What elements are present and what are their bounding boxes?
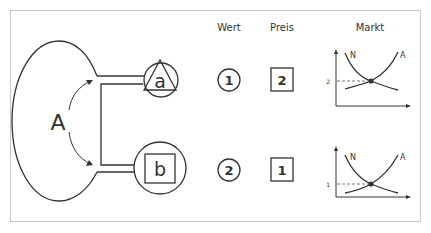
equilibrium-point	[368, 181, 373, 186]
demand-label: N	[350, 153, 356, 162]
supply-label: A	[400, 153, 406, 162]
column-header-wert: Wert	[217, 22, 241, 33]
wert-value: 1	[224, 73, 233, 88]
axis-arrow-icon	[406, 195, 411, 199]
preis-value: 1	[277, 163, 286, 178]
market-chart-row-2: N A 1	[326, 146, 411, 199]
axis-arrow-icon	[334, 146, 338, 151]
equilibrium-price-label: 1	[326, 181, 330, 188]
wert-value: 2	[224, 163, 233, 178]
good-a-label: a	[154, 70, 166, 92]
demand-label: N	[350, 51, 356, 60]
column-header-markt: Markt	[356, 22, 385, 33]
equilibrium-point	[368, 78, 373, 83]
value-price-market-diagram: A a b Wert Preis Markt 1 2 N A 2 2 1	[0, 0, 431, 233]
market-chart-row-1: N A 2	[326, 49, 411, 108]
arrow-to-b	[69, 132, 91, 164]
arrowhead-icon	[86, 160, 93, 166]
column-header-preis: Preis	[270, 22, 294, 33]
good-b-label: b	[154, 158, 166, 180]
preis-value: 2	[277, 73, 286, 88]
axis-arrow-icon	[406, 104, 411, 108]
supply-label: A	[400, 51, 406, 60]
actor-label: A	[50, 110, 65, 135]
axis-arrow-icon	[334, 49, 338, 54]
equilibrium-price-label: 2	[326, 78, 330, 85]
arrow-to-a	[69, 81, 91, 110]
inner-bracket	[101, 84, 143, 165]
